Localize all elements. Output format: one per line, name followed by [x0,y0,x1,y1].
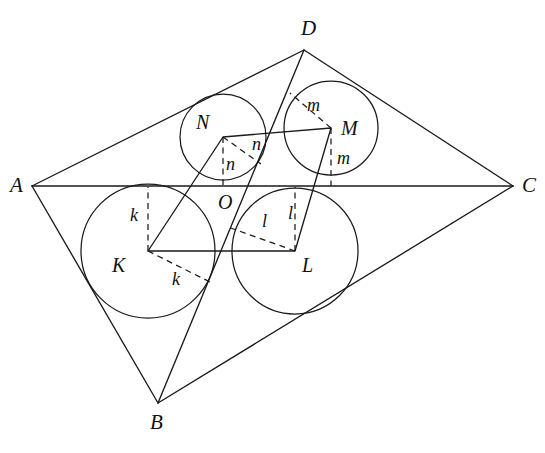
geometry-canvas [0,0,545,453]
vertex-label-A: A [10,175,23,196]
center-label-L: L [302,255,313,275]
center-label-M: M [341,118,358,138]
radius-label-l-vertical: l [288,204,293,222]
radius-label-n-vertical: n [226,155,235,173]
center-label-K: K [112,255,125,275]
center-label-N: N [196,112,209,132]
radius-label-m-vertical: m [337,149,350,167]
radius-label-n-diagonal: n [252,135,261,153]
diagonal-B-D [158,50,304,403]
edge-D-C [304,50,513,186]
edge-A-D [32,50,304,186]
radius-label-m-diagonal: m [307,96,320,114]
diagonals [32,50,513,403]
outer-quadrilateral [32,50,513,403]
geometry-figure: A B C D K L M N O k k l l m m n n [0,0,545,453]
radius-label-k-diagonal: k [172,270,180,288]
intersection-label-O: O [218,192,232,212]
vertex-label-C: C [522,175,536,196]
radius-label-l-diagonal: l [262,212,267,230]
vertex-label-D: D [301,18,316,39]
vertex-label-B: B [150,412,163,433]
edge-B-A [32,186,158,403]
edge-C-B [158,186,513,403]
radius-label-k-vertical: k [130,206,138,224]
radius-K-to-BC [148,251,212,283]
